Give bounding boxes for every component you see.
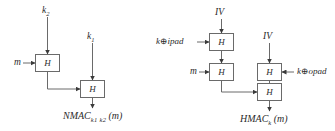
hmac-message-label: m: [190, 67, 197, 77]
message-symbol: m: [14, 57, 21, 67]
wire-hm-to-hfinal: [222, 81, 258, 92]
nmac-key-k2-label: k2: [42, 6, 50, 16]
hmac-caption-name: HMAC: [240, 113, 268, 124]
hmac-hash-block-ipad: H: [209, 33, 234, 51]
ipad-expression: k⊕ipad: [156, 36, 184, 46]
message-symbol: m: [190, 66, 197, 76]
hash-block-label: H: [89, 84, 96, 94]
iv-symbol: IV: [215, 7, 224, 17]
hash-block-label: H: [218, 67, 225, 77]
hmac-hash-block-opad: H: [257, 63, 282, 81]
hash-block-label: H: [266, 87, 273, 97]
hmac-hash-block-message: H: [209, 63, 234, 81]
hmac-caption-subscript: k: [268, 119, 271, 126]
hmac-ipad-label: k⊕ipad: [156, 37, 184, 46]
hmac-opad-label: k⊕opad: [297, 67, 327, 76]
hmac-iv-label-1: IV: [215, 8, 224, 18]
key-subscript: 1: [91, 36, 95, 43]
nmac-message-label: m: [14, 58, 21, 68]
hash-block-label: H: [266, 67, 273, 77]
iv-symbol: IV: [263, 31, 272, 41]
nmac-caption-argument: (m): [108, 110, 122, 121]
key-subscript: 2: [46, 10, 50, 17]
nmac-hash-block-2: H: [80, 80, 105, 98]
hash-block-label: H: [44, 58, 51, 68]
hmac-output-caption: HMACk (m): [240, 114, 288, 124]
hmac-caption-argument: (m): [274, 113, 288, 124]
nmac-caption-name: NMAC: [63, 110, 91, 121]
figure-canvas: H H k2 k1 m NMACk1 k2 (m) H H H H IV IV …: [0, 0, 335, 131]
hmac-hash-block-final: H: [257, 83, 282, 101]
wire-h1-to-h2: [48, 72, 81, 89]
nmac-key-k1-label: k1: [87, 32, 95, 42]
hmac-iv-label-2: IV: [263, 32, 272, 42]
hash-block-label: H: [218, 37, 225, 47]
nmac-hash-block-1: H: [35, 54, 60, 72]
opad-expression: k⊕opad: [297, 66, 327, 76]
nmac-output-caption: NMACk1 k2 (m): [63, 111, 122, 121]
nmac-caption-subscript: k1 k2: [91, 116, 106, 123]
